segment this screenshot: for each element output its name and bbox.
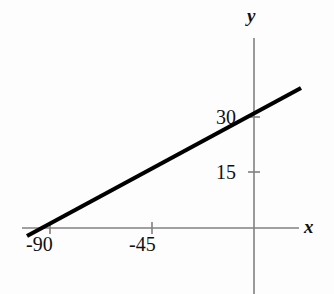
y-axis-label: y (247, 6, 255, 25)
y-tick-label-30: 30 (216, 107, 236, 127)
x-axis-label: x (304, 217, 314, 236)
line-chart: y x -90 -45 15 30 (0, 0, 334, 294)
y-tick-label-15: 15 (216, 162, 236, 182)
x-tick-label-neg45: -45 (129, 234, 156, 254)
data-line-series-0 (27, 88, 301, 236)
x-tick-label-neg90: -90 (26, 234, 53, 254)
